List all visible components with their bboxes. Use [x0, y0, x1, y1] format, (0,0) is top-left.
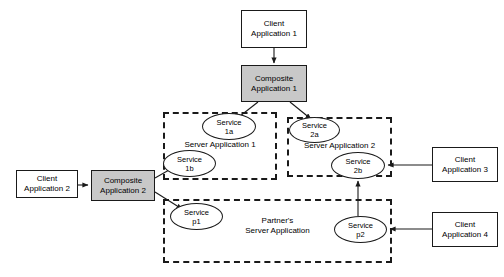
node-label-composite1: Composite Application 1: [249, 74, 299, 94]
node-client1[interactable]: Client Application 1: [241, 10, 307, 48]
node-client2[interactable]: Client Application 2: [16, 170, 78, 198]
service-label-s2a: Service 2a: [302, 121, 327, 139]
service-s1b[interactable]: Service 1b: [163, 150, 216, 177]
service-sp2[interactable]: Service p2: [334, 216, 387, 243]
service-label-s2b: Service 2b: [345, 157, 370, 175]
node-label-client4: Client Application 4: [440, 220, 490, 240]
service-label-s1b: Service 1b: [177, 155, 202, 173]
service-s2b[interactable]: Service 2b: [331, 152, 385, 179]
service-label-sp2: Service p2: [348, 221, 373, 239]
service-label-sp1: Service p1: [184, 208, 209, 226]
service-s1a[interactable]: Service 1a: [202, 113, 256, 140]
container-label-partner: Partner's Server Application: [210, 216, 345, 236]
diagram-canvas: Server Application 1Server Application 2…: [0, 0, 504, 277]
node-composite1[interactable]: Composite Application 1: [241, 65, 307, 102]
container-label-server2: Server Application 2: [287, 141, 392, 151]
node-label-client1: Client Application 1: [249, 19, 299, 39]
node-label-client3: Client Application 3: [440, 155, 490, 175]
service-s2a[interactable]: Service 2a: [289, 117, 340, 143]
container-label-server1: Server Application 1: [163, 140, 277, 150]
node-client3[interactable]: Client Application 3: [432, 147, 498, 182]
service-label-s1a: Service 1a: [216, 118, 241, 136]
service-sp1[interactable]: Service p1: [170, 203, 223, 230]
node-label-composite2: Composite Application 2: [98, 176, 148, 196]
node-client4[interactable]: Client Application 4: [432, 212, 498, 247]
node-label-client2: Client Application 2: [22, 174, 72, 194]
node-composite2[interactable]: Composite Application 2: [91, 170, 155, 201]
